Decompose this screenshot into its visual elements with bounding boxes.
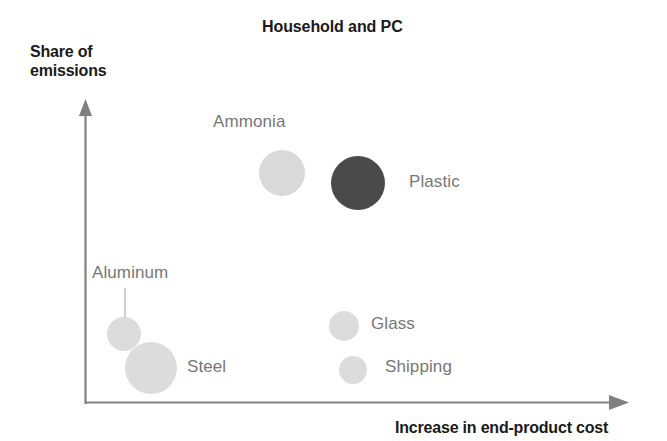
chart-canvas: Household and PC Share of emissions Incr… <box>0 0 667 441</box>
chart-title: Household and PC <box>262 18 403 36</box>
bubble-plastic[interactable] <box>331 156 385 210</box>
x-axis-label: Increase in end-product cost <box>395 418 608 437</box>
bubble-label-glass: Glass <box>371 314 415 334</box>
bubble-aluminum[interactable] <box>107 317 141 351</box>
bubble-label-plastic: Plastic <box>409 172 460 192</box>
bubble-label-ammonia: Ammonia <box>213 112 286 132</box>
bubble-glass[interactable] <box>329 311 359 341</box>
bubble-steel[interactable] <box>125 342 177 394</box>
y-axis-label: Share of emissions <box>30 42 106 80</box>
bubble-shipping[interactable] <box>339 356 367 384</box>
y-axis-arrowhead <box>79 99 92 116</box>
x-axis-arrowhead <box>609 395 629 410</box>
bubble-label-aluminum: Aluminum <box>92 263 168 283</box>
bubble-ammonia[interactable] <box>259 150 305 196</box>
bubble-label-shipping: Shipping <box>385 357 452 377</box>
bubble-label-steel: Steel <box>187 357 226 377</box>
